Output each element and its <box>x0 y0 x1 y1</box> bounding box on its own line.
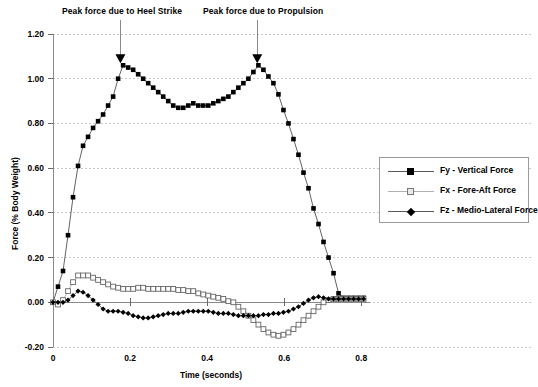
y-axis-tick-label: 1.00 <box>12 74 44 84</box>
annotation-label-heel-strike: Peak force due to Heel Strike <box>62 6 182 16</box>
chart-legend: Fy - Vertical Force Fx - Fore-Aft Force … <box>379 157 529 223</box>
y-axis-tick-label: 0.00 <box>12 297 44 307</box>
data-series-group <box>50 63 366 338</box>
legend-label-fy: Fy - Vertical Force <box>440 165 513 175</box>
legend-label-fz: Fz - Medio-Lateral Force <box>440 205 538 215</box>
x-axis-tick-label: 0.6 <box>267 353 301 363</box>
y-axis-tick-label: 0.20 <box>12 253 44 263</box>
x-axis-tick-label: 0.8 <box>344 353 378 363</box>
filled-square-icon <box>407 168 414 175</box>
legend-label-fx: Fx - Fore-Aft Force <box>440 185 516 195</box>
x-axis-tick-label: 0.2 <box>113 353 147 363</box>
y-axis-tick-label: -0.20 <box>12 342 44 352</box>
legend-item-fz: Fz - Medio-Lateral Force <box>380 201 530 223</box>
filled-diamond-icon <box>407 208 414 215</box>
x-axis-tick-label: 0.4 <box>190 353 224 363</box>
open-square-icon <box>407 188 414 195</box>
y-axis-tick-label: 1.20 <box>12 29 44 39</box>
x-axis-tick-label: 0 <box>36 353 70 363</box>
y-axis-title: Force (% Body Weight) <box>10 157 20 250</box>
annotation-label-propulsion: Peak force due to Propulsion <box>203 6 323 16</box>
annotation-arrows-group <box>115 20 262 63</box>
x-axis-title: Time (seconds) <box>171 370 251 380</box>
legend-item-fx: Fx - Fore-Aft Force <box>380 181 530 203</box>
y-axis-tick-label: 0.80 <box>12 118 44 128</box>
legend-item-fy: Fy - Vertical Force <box>380 161 530 183</box>
